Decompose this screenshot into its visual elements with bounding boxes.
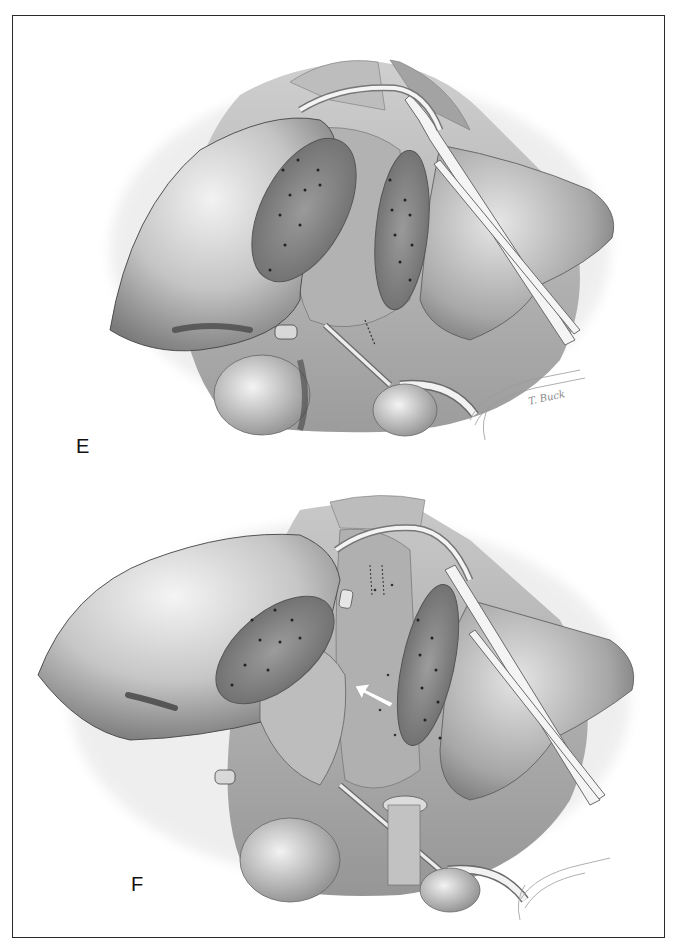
liver-illustration-e [0, 0, 677, 470]
liver-illustration-f [0, 470, 677, 940]
panel-label-e: E [76, 436, 89, 456]
panel-e-illustration: T. Buck E [0, 0, 677, 470]
panel-f-illustration: F [0, 470, 677, 940]
panel-label-f: F [131, 874, 143, 894]
